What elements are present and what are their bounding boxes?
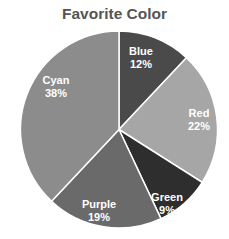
slice-value-blue: 12% [130, 58, 152, 70]
slice-label-red: Red [189, 107, 210, 119]
slice-value-cyan: 38% [45, 87, 67, 99]
slice-label-cyan: Cyan [43, 74, 70, 86]
slice-value-purple: 19% [88, 211, 110, 223]
pie-chart: Blue12%Red22%Green9%Purple19%Cyan38% [0, 0, 229, 239]
slice-value-green: 9% [159, 204, 175, 216]
slice-label-purple: Purple [82, 198, 116, 210]
slice-label-green: Green [151, 191, 183, 203]
slice-value-red: 22% [188, 120, 210, 132]
slice-label-blue: Blue [129, 45, 153, 57]
